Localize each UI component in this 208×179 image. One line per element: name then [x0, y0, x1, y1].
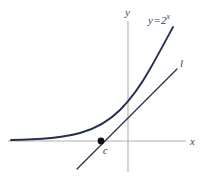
point-c-label: c: [103, 146, 107, 156]
figure-canvas: y x y=2x l c: [0, 0, 208, 179]
exponential-curve: [11, 27, 173, 140]
x-axis-label: x: [190, 136, 195, 147]
curve-equation-exponent: x: [167, 12, 170, 21]
point-c-marker: [98, 138, 105, 145]
curve-equation-operator: =: [153, 14, 161, 26]
y-axis-label: y: [125, 7, 130, 18]
tangent-line-label: l: [180, 58, 183, 69]
tangent-line: [77, 69, 177, 169]
curve-equation-label: y=2x: [148, 15, 170, 26]
